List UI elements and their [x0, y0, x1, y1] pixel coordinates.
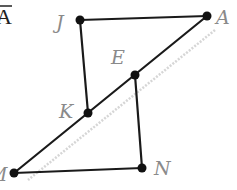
header-fragment: A [0, 4, 12, 29]
point-M [10, 169, 19, 178]
segment-MN [14, 168, 142, 173]
point-N [138, 164, 147, 173]
point-K [84, 109, 93, 118]
label-J: J [52, 11, 65, 33]
point-E [131, 71, 140, 80]
segment-JA [80, 16, 207, 20]
label-E: E [110, 46, 125, 68]
label-N: N [153, 157, 172, 179]
segment-JK [80, 20, 88, 113]
point-J [76, 16, 85, 25]
label-M: M [0, 163, 8, 185]
geometry-diagram: A J A E K M N [0, 0, 237, 190]
point-A [203, 12, 212, 21]
segment-AM [14, 16, 207, 173]
label-A: A [214, 6, 230, 28]
label-K: K [58, 100, 75, 122]
